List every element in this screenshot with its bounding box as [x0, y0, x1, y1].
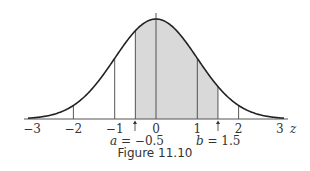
arrow-a [133, 121, 137, 132]
figure-caption: Figure 11.10 [0, 146, 310, 160]
z-axis-label: z [289, 122, 297, 136]
svg-text:−3: −3 [23, 122, 41, 136]
svg-text:−2: −2 [65, 122, 83, 136]
svg-text:3: 3 [276, 122, 284, 136]
arrow-b [216, 121, 220, 132]
